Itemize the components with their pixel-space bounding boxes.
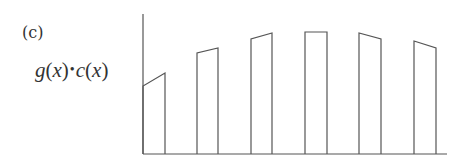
bar <box>305 32 327 154</box>
bar <box>143 73 165 154</box>
bars-group <box>143 32 436 154</box>
bar <box>251 33 272 154</box>
bar-chart <box>0 0 464 168</box>
bar <box>197 48 218 154</box>
bar <box>414 41 436 154</box>
bar <box>359 33 381 154</box>
